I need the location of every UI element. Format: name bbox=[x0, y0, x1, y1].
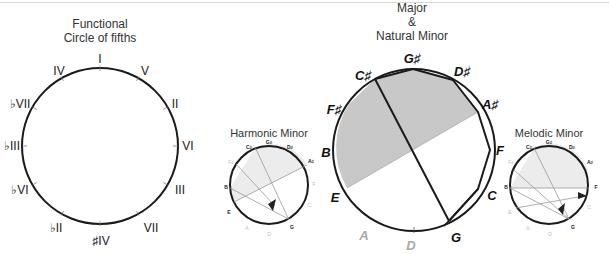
major-shaded-region bbox=[336, 69, 478, 188]
melodic-minor-group: Melodic Minor G♯ D♯ A♯ F C G D A E B F♯ … bbox=[504, 127, 597, 237]
label-V: V bbox=[141, 64, 149, 78]
mm-label-g-sharp: G♯ bbox=[546, 139, 553, 145]
label-VI: VI bbox=[182, 139, 193, 153]
mm-label-f-sharp: F♯ bbox=[508, 159, 514, 165]
mm-label-d-sharp: D♯ bbox=[569, 144, 576, 150]
harmonic-title: Harmonic Minor bbox=[230, 127, 308, 139]
melodic-arrow-down-icon bbox=[558, 203, 565, 215]
hm-label-f-sharp: F♯ bbox=[228, 159, 234, 165]
hm-label-g-sharp: G♯ bbox=[266, 139, 273, 145]
label-sharp-IV: ♯IV bbox=[92, 234, 109, 248]
circle-diagrams: Functional Circle of fifths I V II VI II… bbox=[0, 0, 609, 254]
mj-label-g: G bbox=[451, 230, 461, 245]
mj-label-b: B bbox=[321, 145, 330, 160]
major-title-line1: Major bbox=[397, 1, 427, 15]
melodic-title: Melodic Minor bbox=[515, 127, 584, 139]
mm-label-e: E bbox=[508, 209, 512, 215]
label-III: III bbox=[175, 183, 185, 197]
functional-circle-group: Functional Circle of fifths I V II VI II… bbox=[4, 17, 194, 248]
major-minor-group: Major & Natural Minor G♯ D♯ A♯ F C G D A… bbox=[321, 1, 505, 253]
mj-label-d: D bbox=[406, 238, 416, 253]
functional-title-line1: Functional bbox=[72, 17, 127, 31]
hm-label-d: D bbox=[267, 231, 271, 237]
mj-label-f-sharp: F♯ bbox=[327, 102, 343, 117]
label-I: I bbox=[98, 52, 101, 66]
major-title-line3: Natural Minor bbox=[376, 29, 448, 43]
mm-label-f: F bbox=[594, 184, 597, 190]
label-flat-VII: ♭VII bbox=[10, 97, 31, 111]
label-IV: IV bbox=[53, 64, 64, 78]
label-II: II bbox=[172, 97, 179, 111]
mm-label-g: G bbox=[571, 224, 575, 230]
hm-label-e: E bbox=[227, 209, 231, 215]
mm-label-a-sharp: A♯ bbox=[587, 159, 594, 165]
hm-label-g: G bbox=[290, 224, 294, 230]
mj-label-d-sharp: D♯ bbox=[454, 64, 471, 79]
mm-label-b: B bbox=[504, 184, 508, 190]
mj-label-g-sharp: G♯ bbox=[404, 51, 422, 66]
label-flat-VI: ♭VI bbox=[11, 183, 28, 197]
hm-label-d-sharp: D♯ bbox=[287, 144, 294, 150]
mj-label-a: A bbox=[358, 228, 368, 243]
harmonic-minor-group: Harmonic Minor G♯ D♯ A♯ F C G D A E B F♯… bbox=[224, 127, 315, 237]
hm-label-c: C bbox=[307, 202, 311, 208]
label-VII: VII bbox=[144, 221, 159, 235]
mm-label-c-sharp: C♯ bbox=[526, 144, 533, 150]
mj-label-e: E bbox=[331, 190, 340, 205]
hm-label-f: F bbox=[312, 181, 315, 187]
major-title-line2: & bbox=[408, 15, 416, 29]
mj-label-c-sharp: C♯ bbox=[355, 68, 372, 83]
hm-label-c-sharp: C♯ bbox=[246, 144, 253, 150]
label-flat-II: ♭II bbox=[50, 221, 63, 235]
mj-label-a-sharp: A♯ bbox=[481, 97, 499, 112]
label-flat-III: ♭III bbox=[4, 139, 20, 153]
hm-label-b: B bbox=[224, 184, 228, 190]
hm-label-a-sharp: A♯ bbox=[308, 158, 315, 164]
mj-label-f: F bbox=[496, 143, 505, 158]
mm-label-c: C bbox=[587, 204, 591, 210]
mm-label-a: A bbox=[526, 225, 530, 231]
functional-circle bbox=[22, 68, 178, 224]
mm-label-d: D bbox=[548, 231, 552, 237]
mj-label-c: C bbox=[487, 188, 497, 203]
hm-label-a: A bbox=[245, 225, 249, 231]
functional-title-line2: Circle of fifths bbox=[64, 31, 137, 45]
harmonic-shaded-region bbox=[230, 144, 307, 202]
melodic-shaded-region bbox=[510, 144, 588, 188]
